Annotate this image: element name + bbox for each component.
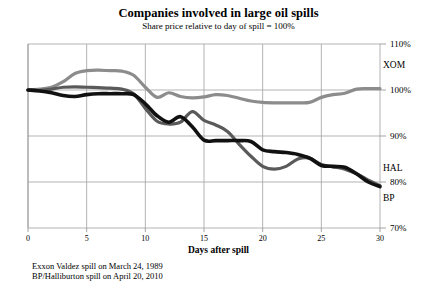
x-axis-tick-label: 15 bbox=[192, 234, 216, 244]
y-axis-tick-label: 110% bbox=[390, 39, 411, 49]
series-label-bp: BP bbox=[383, 193, 395, 203]
x-axis-tick-label: 20 bbox=[251, 234, 275, 244]
footnote-bp: BP/Halliburton spill on April 20, 2010 bbox=[32, 271, 163, 282]
chart-container: Companies involved in large oil spills S… bbox=[0, 0, 437, 293]
x-axis-tick-label: 5 bbox=[75, 234, 99, 244]
x-axis-tick-label: 0 bbox=[16, 234, 40, 244]
x-axis-title: Days after spill bbox=[0, 245, 437, 256]
y-axis-tick-label: 70% bbox=[390, 223, 407, 233]
series-label-xom: XOM bbox=[383, 60, 405, 70]
x-axis-tick-label: 10 bbox=[133, 234, 157, 244]
y-axis-tick-label: 100% bbox=[390, 85, 411, 95]
y-axis-tick-label: 90% bbox=[390, 131, 407, 141]
x-axis-tick-label: 25 bbox=[309, 234, 333, 244]
y-axis-tick-label: 80% bbox=[390, 177, 407, 187]
series-label-hal: HAL bbox=[383, 163, 403, 173]
x-axis-tick-label: 30 bbox=[368, 234, 392, 244]
footnote-exxon: Exxon Valdez spill on March 24, 1989 bbox=[32, 261, 163, 272]
